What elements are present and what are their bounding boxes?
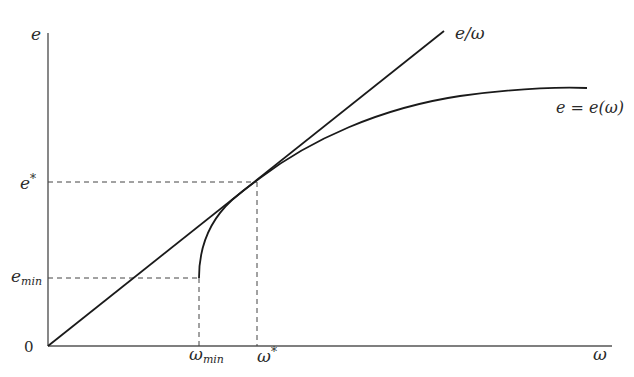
x-axis-label-text: ω bbox=[593, 344, 607, 364]
ray-label-text: e/ω bbox=[455, 23, 485, 43]
omega-star-base: ω bbox=[257, 346, 271, 366]
e-star-base: e bbox=[20, 173, 30, 193]
e-min-base: e bbox=[11, 266, 21, 286]
e-min-label: emin bbox=[11, 268, 42, 287]
curve-label: e = e(ω) bbox=[556, 100, 624, 116]
e-star-sup: * bbox=[30, 172, 36, 186]
curve-label-text: e = e(ω) bbox=[556, 98, 624, 117]
omega-star-label: ω* bbox=[257, 346, 277, 365]
origin-label: 0 bbox=[24, 340, 34, 355]
omega-min-base: ω bbox=[189, 344, 203, 364]
y-axis-label-text: e bbox=[31, 24, 41, 44]
x-axis-label: ω bbox=[593, 346, 607, 363]
origin-label-text: 0 bbox=[24, 338, 34, 356]
economic-diagram: e 0 ω e* emin ωmin ω* e/ω e = e(ω) bbox=[0, 0, 634, 377]
omega-star-sup: * bbox=[271, 345, 277, 359]
diagram-canvas bbox=[0, 0, 634, 377]
e-star-label: e* bbox=[20, 173, 36, 192]
ray-label: e/ω bbox=[455, 25, 485, 42]
e-min-sub: min bbox=[21, 275, 42, 288]
y-axis-label: e bbox=[31, 26, 41, 43]
omega-min-label: ωmin bbox=[189, 346, 224, 365]
omega-min-sub: min bbox=[203, 353, 224, 366]
